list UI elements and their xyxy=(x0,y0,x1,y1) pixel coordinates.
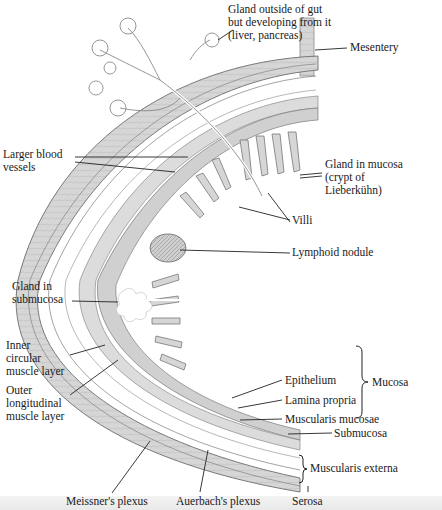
label-submucosa: Submucosa xyxy=(334,427,387,440)
label-gland-in-mucosa: Gland in mucosa (crypt of Lieberkühn) xyxy=(325,158,403,197)
label-outer-longitudinal-muscle: Outer longitudinal muscle layer xyxy=(6,384,64,423)
label-muscularis-mucosae: Muscularis mucosae xyxy=(285,413,379,426)
label-gland-in-submucosa: Gland in submucosa xyxy=(12,280,63,306)
label-inner-circular-muscle: Inner circular muscle layer xyxy=(6,339,64,378)
label-lymphoid-nodule: Lymphoid nodule xyxy=(292,246,373,259)
gland-in-submucosa-shape xyxy=(117,288,180,321)
gut-wall xyxy=(16,56,318,492)
label-lamina-propria: Lamina propria xyxy=(285,394,356,407)
label-serosa: Serosa xyxy=(292,495,323,508)
label-auerbachs-plexus: Auerbach's plexus xyxy=(176,495,260,508)
label-villi: Villi xyxy=(292,214,312,227)
label-epithelium: Epithelium xyxy=(285,374,336,387)
label-mesentery: Mesentery xyxy=(350,41,399,54)
label-meissners-plexus: Meissner's plexus xyxy=(66,495,148,508)
label-larger-blood-vessels: Larger blood vessels xyxy=(3,148,63,174)
label-muscularis-externa: Muscularis externa xyxy=(310,462,398,475)
lymphoid-nodule-shape xyxy=(150,234,186,262)
label-gland-outside-gut: Gland outside of gut but developing from… xyxy=(228,3,331,42)
label-mucosa: Mucosa xyxy=(372,376,408,389)
